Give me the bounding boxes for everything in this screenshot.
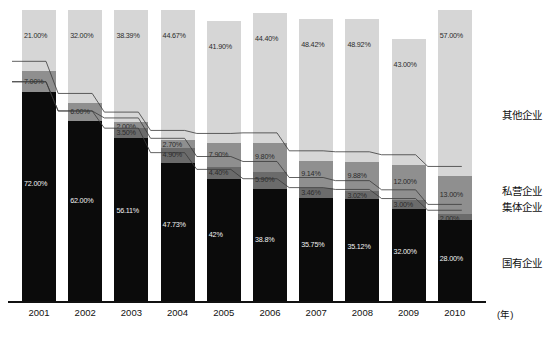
bar-segment-collective: 3.02% (345, 191, 379, 200)
bar-segment-other: 48.92% (345, 19, 379, 162)
segment-value-label: 38.39% (116, 32, 139, 39)
bar-segment-collective: 3.00% (392, 200, 426, 209)
bar-segment-state: 35.75% (299, 198, 333, 302)
segment-value-label: 3.50% (116, 129, 135, 136)
bar-segment-state: 35.12% (345, 199, 379, 302)
bar-segment-other: 41.90% (207, 21, 241, 143)
bar-column: 44.40%9.80%5.90%38.8% (253, 13, 287, 302)
x-axis-tick-2010: 2010 (432, 307, 478, 318)
segment-value-label: 28.00% (440, 255, 463, 262)
bar-segment-collective: 4.40% (207, 167, 241, 180)
x-axis-unit-label: (年) (497, 307, 513, 321)
segment-value-label: 9.88% (347, 172, 366, 179)
bar-column: 48.92%9.88%3.02%35.12% (345, 19, 379, 302)
x-axis-tick-2001: 2001 (16, 307, 62, 318)
x-axis-tick-2006: 2006 (247, 307, 293, 318)
segment-value-label: 21.00% (24, 32, 47, 39)
segment-value-label: 41.90% (209, 43, 232, 50)
bar-segment-private: 12.00% (392, 165, 426, 200)
segment-value-label: 4.90% (163, 151, 182, 158)
bar-segment-private: 2.70% (161, 140, 195, 148)
bar-segment-collective: 4.90% (161, 148, 195, 162)
bar-segment-private: 13.00% (438, 176, 472, 214)
legend-item-3: 国有企业 (502, 258, 542, 269)
bar-segment-private: 7.00% (22, 71, 56, 91)
legend-item-0: 其他企业 (502, 110, 542, 121)
bar-segment-state: 42% (207, 179, 241, 302)
segment-value-label: 35.12% (347, 243, 370, 250)
bar-column: 41.90%7.90%4.40%42% (207, 21, 241, 302)
plot-area: 21.00%7.00%72.00%32.00%6.00%62.00%38.39%… (10, 10, 494, 302)
segment-value-label: 32.00% (70, 32, 93, 39)
bar-segment-other: 48.42% (299, 19, 333, 160)
segment-value-label: 9.14% (301, 170, 320, 177)
bar-column: 44.67%2.70%4.90%47.73% (161, 10, 195, 302)
bar-column: 32.00%6.00%62.00% (68, 10, 102, 302)
segment-value-label: 3.46% (301, 189, 320, 196)
bar-segment-collective: 3.46% (299, 188, 333, 198)
bar-segment-collective: 3.50% (114, 128, 148, 138)
segment-value-label: 3.00% (394, 201, 413, 208)
segment-value-label: 48.92% (347, 41, 370, 48)
segment-value-label: 6.00% (70, 108, 89, 115)
segment-value-label: 42% (209, 231, 223, 238)
segment-value-label: 3.02% (347, 192, 366, 199)
segment-value-label: 56.11% (116, 207, 139, 214)
bar-column: 43.00%12.00%3.00%32.00% (392, 39, 426, 302)
segment-value-label: 13.00% (440, 191, 463, 198)
segment-value-label: 7.90% (209, 151, 228, 158)
bar-segment-other: 44.40% (253, 13, 287, 143)
bar-segment-other: 21.00% (22, 10, 56, 71)
bar-column: 21.00%7.00%72.00% (22, 10, 56, 302)
bar-segment-private: 9.14% (299, 161, 333, 188)
segment-value-label: 35.75% (301, 241, 324, 248)
segment-value-label: 9.80% (255, 153, 274, 160)
segment-value-label: 32.00% (394, 248, 417, 255)
segment-value-label: 12.00% (394, 178, 417, 185)
segment-value-label: 72.00% (24, 180, 47, 187)
bar-segment-state: 38.8% (253, 189, 287, 302)
stacked-bar-chart: 21.00%7.00%72.00%32.00%6.00%62.00%38.39%… (0, 0, 554, 348)
x-axis-tick-2009: 2009 (386, 307, 432, 318)
bar-segment-state: 56.11% (114, 138, 148, 302)
segment-value-label: 47.73% (163, 221, 186, 228)
bar-segment-private: 7.90% (207, 143, 241, 166)
bar-segment-state: 62.00% (68, 121, 102, 302)
x-axis-tick-2007: 2007 (293, 307, 339, 318)
bar-segment-private: 9.88% (345, 162, 379, 191)
legend-item-1: 私营企业 (502, 186, 542, 197)
bar-column: 38.39%2.00%3.50%56.11% (114, 10, 148, 302)
legend-item-2: 集体企业 (502, 202, 542, 213)
x-axis-tick-2005: 2005 (201, 307, 247, 318)
bar-segment-other: 43.00% (392, 39, 426, 165)
x-axis-tick-2002: 2002 (62, 307, 108, 318)
bar-column: 57.00%13.00%2.00%28.00% (438, 10, 472, 302)
segment-value-label: 43.00% (394, 61, 417, 68)
segment-value-label: 4.40% (209, 169, 228, 176)
bar-segment-state: 72.00% (22, 92, 56, 302)
x-axis-tick-2008: 2008 (339, 307, 385, 318)
bar-segment-state: 47.73% (161, 163, 195, 302)
bar-segment-other: 38.39% (114, 10, 148, 122)
x-axis-tick-2003: 2003 (108, 307, 154, 318)
bar-column: 48.42%9.14%3.46%35.75% (299, 19, 333, 302)
bar-segment-collective: 5.90% (253, 172, 287, 189)
x-axis-tick-2004: 2004 (155, 307, 201, 318)
bar-segment-other: 57.00% (438, 10, 472, 176)
x-axis-tick-labels: 2001200220032004200520062007200820092010 (10, 307, 494, 327)
segment-value-label: 7.00% (24, 78, 43, 85)
segment-value-label: 44.40% (255, 35, 278, 42)
x-axis-line (8, 301, 486, 303)
segment-value-label: 44.67% (163, 32, 186, 39)
bar-segment-state: 32.00% (392, 209, 426, 302)
bar-segment-state: 28.00% (438, 220, 472, 302)
chart-legend: 其他企业私营企业集体企业国有企业 (500, 0, 554, 302)
bar-segment-private: 6.00% (68, 103, 102, 121)
bar-segment-private: 9.80% (253, 143, 287, 172)
segment-value-label: 38.8% (255, 236, 274, 243)
segment-value-label: 62.00% (70, 197, 93, 204)
segment-value-label: 48.42% (301, 41, 324, 48)
segment-value-label: 5.90% (255, 176, 274, 183)
segment-value-label: 57.00% (440, 32, 463, 39)
bar-segment-other: 32.00% (68, 10, 102, 103)
